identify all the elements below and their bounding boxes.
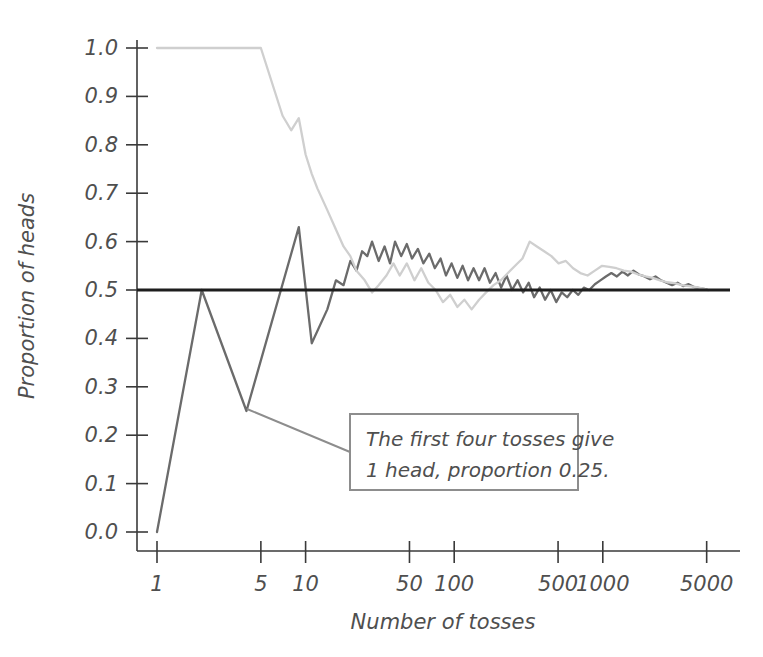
y-tick-label-0.9: 0.9	[85, 84, 118, 108]
x-tick-label-50: 50	[396, 572, 423, 596]
y-tick-label-0.7: 0.7	[85, 181, 119, 205]
y-tick-label-0.4: 0.4	[85, 326, 118, 350]
x-tick-label-10: 10	[292, 572, 319, 596]
y-tick-label-0.1: 0.1	[85, 472, 118, 496]
y-axis-title: Proportion of heads	[15, 193, 39, 399]
x-tick-label-1000: 1000	[576, 572, 629, 596]
x-axis-title: Number of tosses	[351, 610, 536, 634]
y-tick-label-0.6: 0.6	[85, 230, 118, 254]
y-tick-label-0.2: 0.2	[85, 423, 118, 447]
y-tick-label-0.3: 0.3	[85, 375, 118, 399]
x-tick-label-5: 5	[254, 572, 267, 596]
x-axis-ticks	[157, 541, 707, 563]
callout-leader-line	[247, 409, 350, 452]
proportion-of-heads-line-chart: 0.00.10.20.30.40.50.60.70.80.91.0 151050…	[0, 0, 763, 657]
series-line-light	[157, 48, 708, 309]
x-tick-label-100: 100	[434, 572, 474, 596]
y-tick-label-0.8: 0.8	[85, 133, 118, 157]
callout-line-2: 1 head, proportion 0.25.	[366, 458, 610, 482]
callout-line-1: The first four tosses give	[366, 427, 614, 451]
x-axis-tick-labels: 15105010050010005000	[150, 572, 733, 596]
chart-figure: 0.00.10.20.30.40.50.60.70.80.91.0 151050…	[0, 0, 763, 657]
y-tick-label-0.0: 0.0	[85, 520, 118, 544]
y-axis-tick-labels: 0.00.10.20.30.40.50.60.70.80.91.0	[85, 36, 119, 544]
y-tick-label-0.5: 0.5	[85, 278, 118, 302]
x-tick-label-5000: 5000	[680, 572, 733, 596]
x-tick-label-500: 500	[538, 572, 578, 596]
x-tick-label-1: 1	[150, 572, 163, 596]
y-tick-label-1.0: 1.0	[85, 36, 118, 60]
